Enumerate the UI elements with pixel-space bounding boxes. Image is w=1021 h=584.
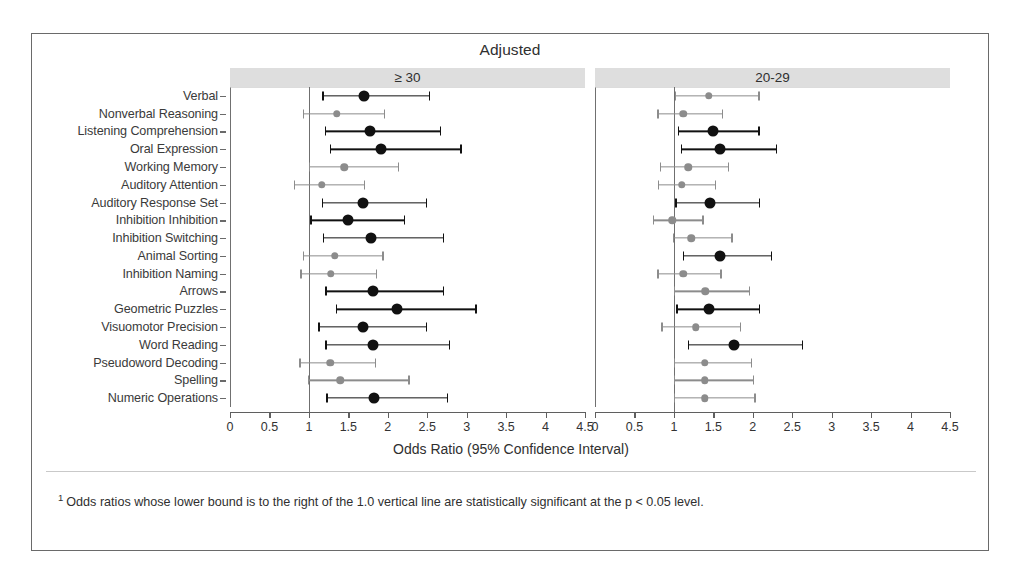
ci-line-20-29-word-reading [688,344,802,345]
ci-cap-upper-ge-30-oral-expression [460,145,461,154]
row-label-inhibition-switching: Inhibition Switching [112,231,218,245]
row-tick [220,309,226,310]
ci-cap-lower-20-29-listening-comprehension [678,127,679,136]
x-tick-20-29-7 [871,412,872,418]
ci-cap-upper-20-29-pseudoword-decoding [751,358,752,367]
ci-line-20-29-auditory-attention [658,184,715,185]
ci-line-20-29-working-memory [660,166,728,167]
ci-cap-lower-20-29-spelling [674,376,675,385]
x-tick-label-20-29-2: 1 [670,420,677,434]
row-tick [220,238,226,239]
x-axis-ge-30 [230,412,585,413]
x-tick-label-20-29-4: 2 [749,420,756,434]
point-marker-20-29-listening-comprehension [707,126,718,137]
x-tick-label-20-29-0: 0 [592,420,599,434]
ci-cap-upper-ge-30-numeric-operations [447,394,448,403]
ci-cap-lower-ge-30-nonverbal-reasoning [303,109,304,118]
ci-cap-upper-ge-30-spelling [408,376,409,385]
ci-cap-lower-ge-30-geometric-puzzles [336,305,337,314]
point-marker-20-29-nonverbal-reasoning [680,110,688,118]
row-label-inhibition-naming: Inhibition Naming [122,267,218,281]
x-tick-20-29-6 [832,412,833,418]
row-tick [220,96,226,97]
ci-line-ge-30-inhibition-inhibition [310,220,403,221]
row-label-pseudoword-decoding: Pseudoword Decoding [93,356,218,370]
ci-line-20-29-arrows [674,291,749,292]
ci-cap-upper-ge-30-visuomotor-precision [426,323,427,332]
ci-line-ge-30-working-memory [309,166,398,167]
point-marker-20-29-auditory-attention [678,181,686,189]
ci-cap-upper-20-29-inhibition-switching [731,234,732,243]
ci-cap-upper-20-29-visuomotor-precision [740,323,741,332]
point-marker-ge-30-visuomotor-precision [358,322,369,333]
point-marker-ge-30-word-reading [367,339,378,350]
x-tick-label-ge-30-0: 0 [227,420,234,434]
row-label-nonverbal-reasoning: Nonverbal Reasoning [99,107,218,121]
row-label-animal-sorting: Animal Sorting [138,249,219,263]
row-tick [220,167,226,168]
x-axis-title: Odds Ratio (95% Confidence Interval) [32,441,990,457]
ci-cap-upper-20-29-inhibition-naming [720,269,721,278]
ci-cap-upper-ge-30-auditory-attention [364,180,365,189]
ci-cap-lower-20-29-nonverbal-reasoning [657,109,658,118]
point-marker-ge-30-oral-expression [376,144,387,155]
row-label-verbal: Verbal [183,89,218,103]
ci-cap-upper-20-29-inhibition-inhibition [702,216,703,225]
point-marker-ge-30-spelling [337,377,345,385]
x-axis-20-29 [595,412,950,413]
point-marker-20-29-arrows [702,288,710,296]
ci-line-ge-30-inhibition-naming [300,273,376,274]
row-tick [220,345,226,346]
row-tick [220,114,226,115]
x-tick-20-29-2 [674,412,675,418]
ci-cap-lower-ge-30-visuomotor-precision [318,323,319,332]
point-marker-20-29-inhibition-inhibition [669,217,677,225]
row-label-listening-comprehension: Listening Comprehension [77,124,218,138]
ci-cap-upper-20-29-verbal [758,91,759,100]
ci-cap-upper-20-29-auditory-response-set [759,198,760,207]
row-tick [220,380,226,381]
ci-cap-upper-ge-30-pseudoword-decoding [375,358,376,367]
row-label-oral-expression: Oral Expression [130,142,218,156]
figure-frame: Adjusted VerbalNonverbal ReasoningListen… [31,33,989,551]
ci-cap-upper-20-29-word-reading [802,340,803,349]
point-marker-20-29-oral-expression [715,144,726,155]
ci-cap-lower-ge-30-pseudoword-decoding [299,358,300,367]
row-label-word-reading: Word Reading [139,338,218,352]
row-label-visuomotor-precision: Visuomotor Precision [101,320,218,334]
ci-cap-lower-ge-30-inhibition-switching [323,234,324,243]
row-label-auditory-response-set: Auditory Response Set [91,196,218,210]
ci-cap-lower-ge-30-auditory-attention [294,180,295,189]
ci-cap-lower-20-29-oral-expression [681,145,682,154]
row-tick [220,398,226,399]
ci-line-20-29-visuomotor-precision [661,326,740,327]
ci-line-20-29-nonverbal-reasoning [657,113,722,114]
panel-header-20-29: 20-29 [595,68,950,87]
ci-cap-lower-ge-30-listening-comprehension [325,127,326,136]
point-marker-20-29-working-memory [684,163,692,171]
ci-cap-upper-ge-30-geometric-puzzles [475,305,476,314]
x-tick-label-20-29-9: 4.5 [941,420,958,434]
ci-line-20-29-animal-sorting [683,255,771,256]
row-tick [220,149,226,150]
ci-cap-upper-ge-30-verbal [429,91,430,100]
ci-cap-lower-ge-30-inhibition-naming [300,269,301,278]
ci-cap-upper-ge-30-inhibition-switching [443,234,444,243]
row-tick [220,274,226,275]
ci-cap-lower-20-29-pseudoword-decoding [674,358,675,367]
ci-line-20-29-listening-comprehension [678,131,758,132]
ci-line-ge-30-geometric-puzzles [336,309,476,310]
point-marker-20-29-inhibition-switching [687,234,695,242]
point-marker-20-29-auditory-response-set [705,197,716,208]
point-marker-ge-30-numeric-operations [369,393,380,404]
footnote-text: Odds ratios whose lower bound is to the … [66,495,703,509]
x-tick-label-ge-30-5: 2.5 [419,420,436,434]
ci-cap-lower-ge-30-arrows [325,287,326,296]
point-marker-20-29-visuomotor-precision [692,323,700,331]
ci-line-20-29-auditory-response-set [675,202,759,203]
ci-cap-upper-ge-30-inhibition-naming [376,269,377,278]
ci-line-ge-30-word-reading [325,344,448,345]
point-marker-ge-30-geometric-puzzles [392,304,403,315]
x-tick-ge-30-1 [269,412,270,418]
ci-line-ge-30-pseudoword-decoding [299,362,375,363]
